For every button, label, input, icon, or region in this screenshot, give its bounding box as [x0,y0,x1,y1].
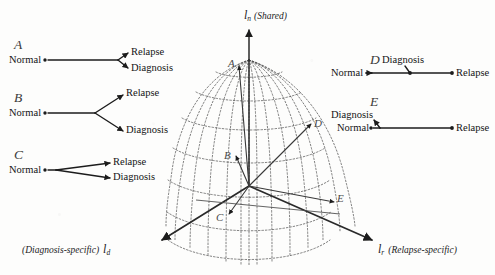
vector-to-point-c [229,186,249,214]
sphere-point-b-label: B [224,150,231,161]
panel-c-label-relapse: Relapse [113,157,146,168]
panel-e-node-relapse [450,126,454,130]
panel-d-id: D [370,53,380,67]
sphere-point-e-label: E [337,193,344,204]
panel-e-label-diagnosis: Diagnosis [331,110,373,121]
panel-b-id: B [14,91,22,105]
panel-a-branch-diagnosis [118,60,128,68]
panel-a-label-diagnosis: Diagnosis [131,63,173,74]
panel-e-node-normal [369,126,372,129]
diagnosis-specific-axis-vector [162,186,249,240]
vector-to-point-d [249,124,311,186]
relapse-specific-axis-vector [249,186,372,240]
sphere-point-vectors [229,66,334,214]
panel-b-label-relapse: Relapse [126,88,159,99]
panel-e-branch-diagnosis [374,120,380,128]
diagnosis-specific-axis-label: (Diagnosis-specific) ld [22,240,110,257]
hemisphere-grid [166,60,355,266]
panel-b-diagram [43,95,123,131]
panel-a-diagram [43,53,128,68]
panel-b-branch-relapse [95,95,123,113]
panel-c-label-normal: Normal [9,165,41,176]
shared-axis-label: ln (Shared) [244,9,287,23]
panel-d-diagram [366,66,454,75]
panel-a-label-relapse: Relapse [131,47,164,58]
panel-c-label-diagnosis: Diagnosis [113,172,155,183]
relapse-specific-axis-label: lr (Relapse-specific) [378,240,457,257]
sphere-point-c-label: C [216,212,223,223]
panel-c-diagram [43,163,110,178]
vector-to-point-a [239,66,249,186]
panel-b-label-normal: Normal [9,108,41,119]
panel-d-label-normal: Normal [331,68,363,79]
panel-e-id: E [370,95,378,109]
panel-e-diagram [369,120,454,130]
panel-c-branch-relapse [56,163,110,170]
panel-b-node-normal [43,111,46,114]
sphere-point-a-label: A [228,58,235,69]
sphere-point-d-label: D [314,118,322,129]
panel-e-label-normal: Normal [337,123,369,134]
panel-c-node-normal [43,168,46,171]
axis-vectors [162,30,372,240]
panel-d-node-relapse [450,71,454,75]
panel-b-label-diagnosis: Diagnosis [126,125,168,136]
panel-d-stub-diagnosis [405,66,410,73]
panel-d-label-relapse: Relapse [456,68,489,79]
trajectory-latent-space-figure [0,0,495,275]
panel-a-id: A [14,38,22,52]
panel-c-branch-diagnosis [56,170,110,178]
panel-e-label-relapse: Relapse [456,123,489,134]
panel-b-branch-diagnosis [95,113,123,131]
panel-a-node-normal [43,58,46,61]
panel-d-label-diagnosis: Diagnosis [382,55,424,66]
vector-to-point-e [249,186,334,202]
panel-a-branch-relapse [118,53,128,60]
panel-a-label-normal: Normal [9,55,41,66]
panel-c-id: C [14,148,23,162]
